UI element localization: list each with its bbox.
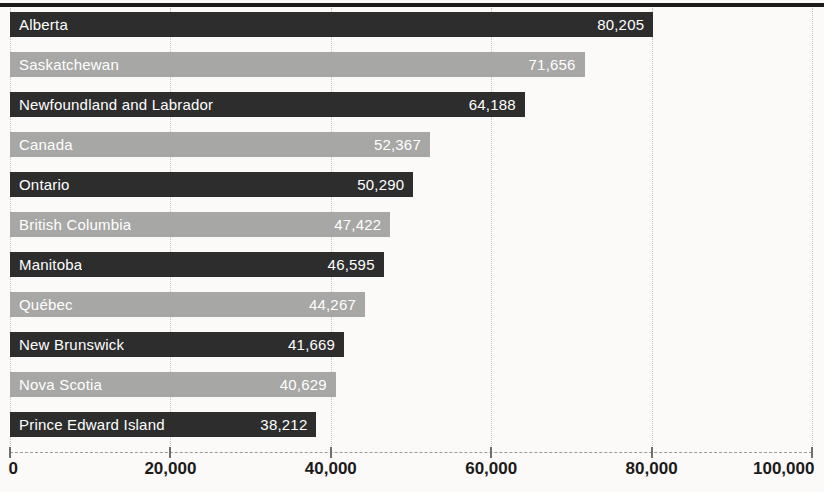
bar-category-label: British Columbia: [19, 216, 131, 233]
x-tick-label-100000: 100,000: [753, 459, 814, 479]
x-tick-label-0: 0: [9, 459, 18, 479]
bar-canada: Canada52,367: [10, 132, 430, 157]
bar-value-label: 41,669: [288, 336, 335, 353]
bar-quebec: Québec44,267: [10, 292, 365, 317]
bar-prince-edward-island: Prince Edward Island38,212: [10, 412, 316, 437]
bar-category-label: Nova Scotia: [19, 376, 102, 393]
x-tick-label-20000: 20,000: [144, 459, 196, 479]
x-tick-label-60000: 60,000: [465, 459, 517, 479]
bar-category-label: Ontario: [19, 176, 70, 193]
bar-category-label: Saskatchewan: [19, 56, 119, 73]
bar-manitoba: Manitoba46,595: [10, 252, 384, 277]
bar-nova-scotia: Nova Scotia40,629: [10, 372, 336, 397]
x-tick-label-40000: 40,000: [305, 459, 357, 479]
bar-category-label: Newfoundland and Labrador: [19, 96, 213, 113]
bar-value-label: 47,422: [334, 216, 381, 233]
plot-area: Alberta80,205Saskatchewan71,656Newfoundl…: [10, 8, 812, 452]
gridline-80000: [652, 8, 653, 452]
bar-alberta: Alberta80,205: [10, 12, 653, 37]
bar-chart: Alberta80,205Saskatchewan71,656Newfoundl…: [0, 0, 824, 492]
bar-value-label: 46,595: [328, 256, 375, 273]
bar-category-label: Manitoba: [19, 256, 82, 273]
x-tick-80000: [651, 447, 653, 458]
bar-newfoundland-and-labrador: Newfoundland and Labrador64,188: [10, 92, 525, 117]
bar-value-label: 38,212: [260, 416, 307, 433]
x-tick-40000: [330, 447, 332, 458]
bar-category-label: Alberta: [19, 16, 68, 33]
bar-saskatchewan: Saskatchewan71,656: [10, 52, 585, 77]
bar-value-label: 64,188: [469, 96, 516, 113]
x-tick-60000: [490, 447, 492, 458]
x-axis-line: [10, 452, 812, 453]
bar-category-label: Québec: [19, 296, 73, 313]
bar-new-brunswick: New Brunswick41,669: [10, 332, 344, 357]
x-tick-20000: [169, 447, 171, 458]
x-tick-label-80000: 80,000: [626, 459, 678, 479]
bar-value-label: 52,367: [374, 136, 421, 153]
top-rule: [0, 3, 824, 7]
x-tick-100000: [811, 447, 813, 458]
gridline-100000: [812, 8, 813, 452]
bar-category-label: Canada: [19, 136, 73, 153]
bar-category-label: New Brunswick: [19, 336, 124, 353]
bar-value-label: 44,267: [309, 296, 356, 313]
bar-value-label: 50,290: [357, 176, 404, 193]
bar-ontario: Ontario50,290: [10, 172, 413, 197]
bar-value-label: 80,205: [597, 16, 644, 33]
x-tick-0: [9, 447, 11, 458]
bar-british-columbia: British Columbia47,422: [10, 212, 390, 237]
bar-category-label: Prince Edward Island: [19, 416, 165, 433]
bar-value-label: 40,629: [280, 376, 327, 393]
bar-value-label: 71,656: [529, 56, 576, 73]
